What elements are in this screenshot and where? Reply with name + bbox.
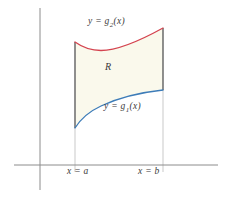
left-bound-label: x = a [67, 166, 89, 176]
figure-canvas [0, 0, 226, 198]
lower-curve-label: y = g1(x) [104, 101, 141, 114]
upper-curve-label: y = g2(x) [88, 16, 125, 29]
upper-curve-argument: (x) [113, 16, 124, 26]
region-label: R [105, 61, 111, 72]
lower-curve-argument: (x) [129, 101, 140, 111]
right-bound-label: x = b [138, 166, 160, 176]
math-figure: y = g2(x) y = g1(x) R x = a x = b [0, 0, 226, 198]
